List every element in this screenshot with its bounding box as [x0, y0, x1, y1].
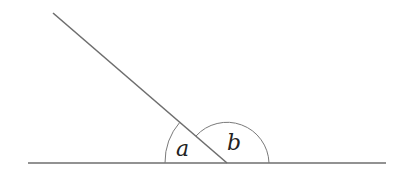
transversal-line [53, 13, 227, 163]
angle-a-label: a [176, 136, 189, 161]
angle-diagram: a b [0, 0, 405, 172]
angle-b-label: b [227, 130, 241, 155]
